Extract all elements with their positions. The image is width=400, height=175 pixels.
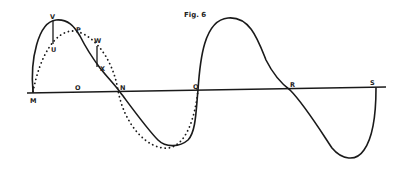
label-m: M	[30, 97, 36, 105]
label-r: R	[290, 81, 295, 89]
label-u: U	[51, 46, 56, 54]
label-q: Q	[193, 83, 199, 91]
label-s: S	[370, 79, 375, 87]
label-v: V	[50, 13, 55, 21]
label-w: W	[94, 37, 101, 45]
wave-diagram: Fig. 6 M O N Q R S V U P W X	[0, 0, 400, 175]
label-o: O	[75, 84, 81, 92]
dotted-sine-curve	[33, 31, 198, 148]
label-x: X	[100, 65, 105, 73]
label-p: P	[76, 26, 81, 34]
label-n: N	[120, 84, 125, 92]
axis-line	[27, 87, 386, 93]
figure-title: Fig. 6	[184, 11, 206, 19]
